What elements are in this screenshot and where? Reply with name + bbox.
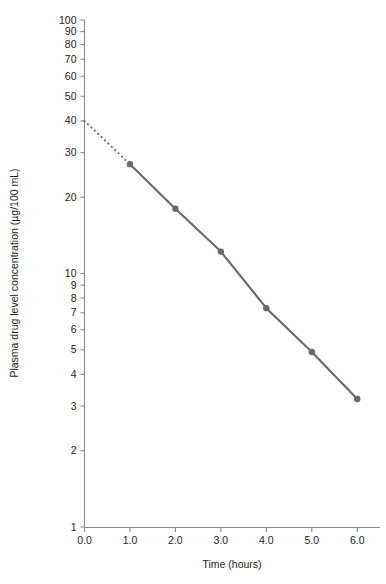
- x-tick-label: 6.0: [350, 534, 365, 546]
- data-point-marker: [127, 161, 133, 167]
- y-tick-label: 70: [65, 53, 77, 65]
- y-tick-label: 6: [71, 323, 77, 335]
- x-tick-label: 3.0: [214, 534, 229, 546]
- y-tick-label: 90: [65, 25, 77, 37]
- x-tick-label: 5.0: [305, 534, 320, 546]
- data-point-marker: [263, 305, 269, 311]
- y-tick-label: 9: [71, 279, 77, 291]
- axes: [85, 20, 381, 528]
- x-tick-label: 1.0: [123, 534, 138, 546]
- y-tick-label: 4: [71, 368, 77, 380]
- data-point-marker: [172, 206, 178, 212]
- y-tick-label: 8: [71, 292, 77, 304]
- y-tick-label: 30: [65, 146, 77, 158]
- plasma-drug-level-semilog-plot: 123456789102030405060708090100 0.01.02.0…: [0, 0, 386, 584]
- x-tick-label: 0.0: [77, 534, 92, 546]
- chart-container: 123456789102030405060708090100 0.01.02.0…: [0, 0, 386, 584]
- y-tick-label: 60: [65, 70, 77, 82]
- y-tick-label: 2: [71, 444, 77, 456]
- x-tick-label: 2.0: [168, 534, 183, 546]
- y-tick-label: 20: [65, 191, 77, 203]
- y-axis-ticks: 123456789102030405060708090100: [59, 14, 85, 533]
- y-tick-label: 100: [59, 14, 77, 26]
- y-tick-label: 80: [65, 38, 77, 50]
- extrapolation-dotted-line: [85, 121, 130, 164]
- x-tick-label: 4.0: [259, 534, 274, 546]
- observed-data-line: [130, 164, 357, 399]
- y-tick-label: 1: [71, 521, 77, 533]
- y-tick-label: 3: [71, 400, 77, 412]
- y-tick-label: 7: [71, 306, 77, 318]
- x-axis-ticks: 0.01.02.03.04.05.06.0: [77, 527, 365, 546]
- y-tick-label: 10: [65, 267, 77, 279]
- data-point-marker: [218, 248, 224, 254]
- y-axis-title: Plasma drug level concentration (µg/100 …: [8, 168, 20, 377]
- y-tick-label: 50: [65, 90, 77, 102]
- data-point-marker: [354, 396, 360, 402]
- data-point-marker: [309, 349, 315, 355]
- y-tick-label: 40: [65, 114, 77, 126]
- y-tick-label: 5: [71, 343, 77, 355]
- x-axis-title: Time (hours): [202, 558, 261, 570]
